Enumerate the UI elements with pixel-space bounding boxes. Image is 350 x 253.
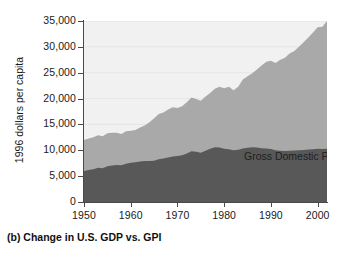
y-tick-mark [78,176,83,177]
y-tick-mark [78,21,83,22]
figure-change-in-us-gdp-vs-gpi: Gross Domestic Product (GDP) Genuine Pro… [0,0,350,253]
x-tick-mark [84,202,85,207]
y-axis-line [83,20,84,203]
x-tick-mark [224,202,225,207]
y-tick-mark [78,124,83,125]
x-tick-mark [271,202,272,207]
y-tick-label: 35,000 [43,14,76,26]
gdp-series-label: Gross Domestic Product (GDP) [244,150,327,162]
y-tick-label: 15,000 [43,117,76,129]
y-axis-title: 1996 dollars per capita [13,30,25,190]
stacked-area-series [84,21,327,202]
x-axis-line [83,202,328,203]
y-tick-label: 0 [70,195,76,207]
y-tick-mark [78,73,83,74]
y-tick-mark [78,202,83,203]
x-tick-label: 1980 [212,209,236,221]
figure-caption: (b) Change in U.S. GDP vs. GPI [7,231,161,243]
y-tick-mark [78,99,83,100]
y-tick-label: 25,000 [43,66,76,78]
x-tick-mark [177,202,178,207]
y-tick-mark [78,150,83,151]
y-tick-label: 10,000 [43,143,76,155]
y-tick-label: 20,000 [43,92,76,104]
plot-area: Gross Domestic Product (GDP) Genuine Pro… [84,21,327,202]
x-tick-label: 1990 [259,209,283,221]
y-tick-label: 30,000 [43,40,76,52]
x-tick-label: 1970 [166,209,190,221]
x-tick-label: 2000 [306,209,330,221]
x-tick-label: 1950 [72,209,96,221]
y-tick-mark [78,47,83,48]
x-tick-mark [318,202,319,207]
x-tick-label: 1960 [119,209,143,221]
x-tick-mark [131,202,132,207]
y-tick-label: 5,000 [49,169,76,181]
